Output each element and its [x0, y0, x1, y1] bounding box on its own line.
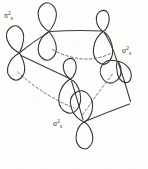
orbital-left-lower-lobe: [8, 53, 25, 80]
hidden-bond-left-bottom: [18, 72, 75, 108]
label-sigma-2s-right-subscript: s: [129, 50, 131, 56]
orbital-bottom-large-lobe: [70, 91, 92, 122]
orbital-center: [59, 58, 81, 113]
orbital-left: [7, 26, 25, 80]
orbital-upper-right-large-lobe: [93, 32, 112, 65]
label-sigma-2s-bottom: σ2s: [53, 118, 62, 129]
label-pi-2s: π2s: [4, 10, 13, 21]
orbitals-group: [7, 3, 132, 149]
orbital-center-large-lobe: [59, 79, 81, 113]
orbital-diagram-figure: π2s σ2s σ2s: [0, 0, 148, 169]
labels-group: π2s σ2s σ2s: [4, 10, 131, 129]
label-sigma-2s-bottom-subscript: s: [60, 123, 62, 129]
diagram-canvas: π2s σ2s σ2s: [0, 0, 148, 169]
orbital-upper-right-small-lobe: [96, 10, 109, 31]
orbital-left-upper-lobe: [7, 26, 24, 53]
bond-top-upperright: [51, 31, 103, 32]
orbital-top-upper-lobe: [38, 3, 56, 32]
bond-left-center: [21, 56, 69, 79]
label-pi-2s-subscript: s: [11, 15, 13, 21]
orbital-top-lower-lobe: [38, 32, 56, 61]
hidden-bond-right-bottom: [83, 74, 113, 115]
orbital-bottom-small-lobe: [76, 122, 93, 149]
orbital-right: [100, 60, 131, 83]
hidden-bond-top-right: [53, 50, 113, 60]
bonds-dashed-group: [18, 50, 113, 116]
bond-upperright-right: [105, 33, 117, 60]
label-sigma-2s-right: σ2s: [122, 45, 131, 56]
orbital-right-large-lobe: [100, 60, 121, 83]
bonds-solid-group: [21, 31, 131, 121]
